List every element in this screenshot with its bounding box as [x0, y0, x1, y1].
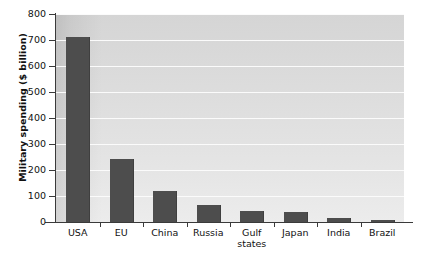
y-tick-mark: [49, 196, 55, 197]
x-tick-mark: [100, 222, 101, 227]
y-tick-label: 300: [2, 139, 46, 149]
bar: [110, 159, 134, 222]
y-tick-mark: [49, 118, 55, 119]
x-tick-mark: [143, 222, 144, 227]
y-tick-label: 200: [2, 165, 46, 175]
bar: [197, 205, 221, 222]
x-tick-label: Brazil: [361, 228, 405, 239]
y-tick-label: 0: [2, 217, 46, 227]
x-tick-label: EU: [100, 228, 144, 239]
bar: [240, 211, 264, 222]
y-tick-label: 600: [2, 61, 46, 71]
x-tick-mark: [361, 222, 362, 227]
x-tick-label: USA: [56, 228, 100, 239]
gridline: [56, 196, 404, 197]
x-tick-mark: [317, 222, 318, 227]
gridline: [56, 118, 404, 119]
y-tick-label: 700: [2, 35, 46, 45]
bar: [153, 191, 177, 222]
gridline: [56, 92, 404, 93]
x-tick-mark: [230, 222, 231, 227]
gridline: [56, 14, 404, 15]
y-tick-label: 400: [2, 113, 46, 123]
gridline: [56, 40, 404, 41]
y-tick-mark: [49, 170, 55, 171]
x-tick-label: Russia: [187, 228, 231, 239]
y-tick-label: 800: [2, 9, 46, 19]
gridline: [56, 170, 404, 171]
y-tick-mark: [49, 222, 55, 223]
y-tick-mark: [49, 14, 55, 15]
bar: [284, 212, 308, 222]
y-axis-line: [55, 13, 56, 223]
x-tick-mark: [274, 222, 275, 227]
x-tick-label: India: [317, 228, 361, 239]
y-tick-label: 500: [2, 87, 46, 97]
y-tick-mark: [49, 92, 55, 93]
gridline: [56, 144, 404, 145]
y-axis-ticks: 0100200300400500600700800: [0, 0, 46, 264]
x-tick-mark: [187, 222, 188, 227]
bar: [66, 37, 90, 222]
y-tick-mark: [49, 66, 55, 67]
y-tick-mark: [49, 144, 55, 145]
x-tick-label: Gulf states: [230, 228, 274, 249]
x-tick-label: Japan: [274, 228, 318, 239]
y-tick-label: 100: [2, 191, 46, 201]
plot-area: [56, 14, 404, 222]
gridline: [56, 66, 404, 67]
y-tick-mark: [49, 40, 55, 41]
x-tick-label: China: [143, 228, 187, 239]
bar-chart: Military spending ($ billion) 0100200300…: [0, 0, 421, 264]
